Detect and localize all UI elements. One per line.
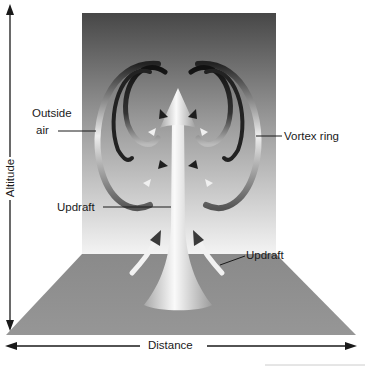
label-outside-air-line2: air [36,124,49,137]
label-vortex-ring: Vortex ring [284,130,339,143]
label-distance-axis: Distance [148,339,193,352]
diagram-canvas: Outside air Vortex ring Updraft Updraft … [0,0,367,370]
label-updraft-ground: Updraft [246,249,284,262]
label-altitude-axis: Altitude [4,154,16,202]
label-outside-air-line1: Outside [32,107,72,120]
label-updraft-column: Updraft [57,201,95,214]
